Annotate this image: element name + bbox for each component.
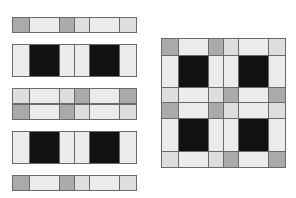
pattern-cell [30, 18, 60, 32]
pattern-cell [162, 39, 179, 55]
pattern-cell [30, 89, 60, 103]
pattern-cell [239, 39, 269, 55]
pattern-cell [13, 18, 30, 32]
pattern-cell [30, 176, 60, 190]
pattern-cell [60, 105, 76, 119]
pattern-cell [162, 88, 179, 102]
pattern-cell [30, 105, 60, 119]
pattern-cell [179, 103, 209, 118]
pattern-cell [269, 152, 285, 167]
pattern-cell [90, 89, 120, 103]
pattern-cell [75, 89, 90, 103]
pattern-cell [224, 88, 239, 102]
pattern-cell [224, 119, 239, 151]
pattern-cell [239, 56, 269, 87]
pattern-cell [75, 18, 90, 32]
pattern-cell [13, 105, 30, 119]
pattern-cell [75, 176, 90, 190]
pattern-cell [120, 176, 136, 190]
pattern-cell [120, 105, 136, 119]
pattern-cell [179, 88, 209, 102]
pattern-cell [209, 103, 225, 118]
pattern-cell [224, 56, 239, 87]
pattern-cell [162, 103, 179, 118]
pattern-cell [60, 45, 76, 76]
pattern-cell [13, 132, 30, 163]
pattern-cell [269, 39, 285, 55]
pattern-strip [12, 44, 137, 77]
pattern-cell [162, 56, 179, 87]
pattern-cell [120, 89, 136, 103]
pattern-cell [60, 89, 76, 103]
pattern-cell [13, 45, 30, 76]
pattern-strip [12, 175, 137, 191]
pattern-cell [162, 152, 179, 167]
pattern-cell [224, 152, 239, 167]
pattern-cell [120, 45, 136, 76]
pattern-cell [209, 88, 225, 102]
pattern-cell [13, 89, 30, 103]
pattern-cell [179, 152, 209, 167]
pattern-cell [209, 39, 225, 55]
pattern-cell [60, 176, 76, 190]
pattern-cell [90, 132, 120, 163]
pattern-strip [12, 104, 137, 120]
pattern-cell [209, 56, 225, 87]
pattern-cell [269, 119, 285, 151]
pattern-cell [239, 152, 269, 167]
grid-row [161, 87, 286, 103]
grid-row [161, 151, 286, 168]
pattern-cell [120, 132, 136, 163]
pattern-cell [30, 132, 60, 163]
pattern-cell [75, 132, 90, 163]
pattern-cell [209, 152, 225, 167]
pattern-cell [60, 132, 76, 163]
pattern-cell [269, 88, 285, 102]
grid-row [161, 102, 286, 119]
pattern-cell [179, 39, 209, 55]
pattern-cell [179, 119, 209, 151]
pattern-cell [239, 119, 269, 151]
pattern-cell [269, 56, 285, 87]
pattern-cell [239, 103, 269, 118]
pattern-cell [90, 105, 120, 119]
pattern-cell [13, 176, 30, 190]
pattern-cell [120, 18, 136, 32]
pattern-cell [90, 18, 120, 32]
pattern-cell [30, 45, 60, 76]
pattern-cell [269, 103, 285, 118]
pattern-cell [209, 119, 225, 151]
pattern-cell [75, 45, 90, 76]
pattern-cell [60, 18, 76, 32]
pattern-cell [239, 88, 269, 102]
pattern-cell [224, 39, 239, 55]
grid-row [161, 55, 286, 88]
pattern-strip [12, 88, 137, 104]
pattern-cell [75, 105, 90, 119]
pattern-cell [179, 56, 209, 87]
pattern-cell [90, 45, 120, 76]
pattern-cell [90, 176, 120, 190]
pattern-cell [224, 103, 239, 118]
pattern-strip [12, 17, 137, 33]
pattern-strip [12, 131, 137, 164]
grid-row [161, 38, 286, 56]
pattern-cell [162, 119, 179, 151]
grid-row [161, 118, 286, 152]
